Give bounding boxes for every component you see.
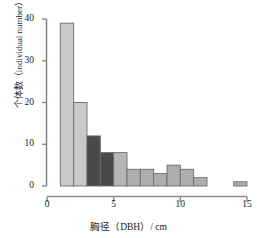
y-tick-label: 10 [14, 139, 34, 149]
y-tick-label: 0 [14, 181, 34, 191]
x-axis-label: 胸径（DBH）/ cm [0, 219, 257, 233]
x-tick-label: 0 [37, 200, 57, 210]
histogram-figure: 010203040 051015 个体数（individual number） … [0, 0, 257, 238]
histogram-bar [234, 182, 247, 186]
y-axis-label: 个体数（individual number） [12, 0, 25, 133]
histogram-bar [87, 136, 100, 186]
histogram-bar [180, 169, 193, 186]
x-tick-label: 5 [104, 200, 124, 210]
histogram-bar [127, 169, 140, 186]
x-axis-ticks [47, 197, 247, 202]
histogram-bar [140, 169, 153, 186]
histogram-bar [100, 153, 113, 186]
histogram-bar [154, 173, 167, 186]
histogram-bar [60, 23, 73, 186]
histogram-bar [194, 178, 207, 186]
x-tick-label: 10 [170, 200, 190, 210]
histogram-bar [74, 103, 87, 187]
bar-group [60, 23, 247, 186]
histogram-bar [114, 153, 127, 186]
x-tick-label: 15 [237, 200, 257, 210]
histogram-bar [167, 165, 180, 186]
